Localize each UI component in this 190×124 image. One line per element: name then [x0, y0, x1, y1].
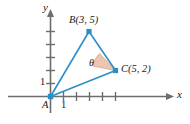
x-axis-unit-label: 1: [61, 100, 66, 111]
y-axis-label: y: [43, 2, 48, 13]
point-label-B: B(3, 5): [69, 15, 98, 26]
point-label-C: C(5, 2): [121, 64, 151, 75]
figure-container: y x B(3, 5) C(5, 2) A θ 1 1: [0, 0, 190, 124]
x-axis-label: x: [177, 89, 182, 100]
vertex-marker-A: [48, 94, 53, 99]
x-axis-arrow-icon: [166, 93, 174, 100]
point-label-A: A: [42, 100, 48, 111]
vertex-marker-B: [86, 29, 91, 34]
y-axis-unit-label: 1: [40, 77, 45, 88]
angle-sector-shading: [93, 54, 116, 71]
vertex-marker-C: [113, 68, 118, 73]
edge-A-B: [51, 32, 90, 97]
angle-label-theta: θ: [89, 58, 94, 68]
edge-C-A: [51, 71, 116, 97]
y-axis-arrow-icon: [47, 9, 54, 17]
